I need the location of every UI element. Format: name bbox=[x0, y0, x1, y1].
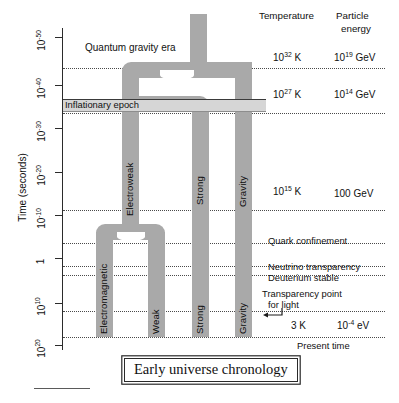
axis-tick-label: 1010 bbox=[28, 296, 54, 310]
particle-energy-value: 1014 GeV bbox=[334, 89, 375, 100]
axis-tick-label: 1 bbox=[28, 251, 54, 265]
axis-tick bbox=[55, 345, 63, 346]
temperature-value: 1027 K bbox=[273, 89, 301, 100]
axis-tick bbox=[55, 172, 63, 173]
branch-label-weak: Weak bbox=[150, 309, 161, 334]
particle-energy-header-line1: Particle bbox=[336, 10, 369, 21]
figure-caption: Early universe chronology bbox=[124, 358, 298, 382]
axis-tick-label: 10-50 bbox=[28, 30, 54, 44]
axis-tick-label: 10-10 bbox=[28, 208, 54, 222]
axis-tick-label: 10-30 bbox=[28, 121, 54, 135]
axis-tick bbox=[55, 37, 63, 38]
time-axis-line bbox=[62, 28, 63, 350]
branch-trunk bbox=[190, 14, 207, 62]
event-quark-confinement: Quark confinement bbox=[268, 235, 347, 246]
gridline-10e-35 bbox=[63, 113, 385, 114]
inflationary-epoch-label: Inflationary epoch bbox=[65, 99, 139, 110]
axis-tick-label: 10-20 bbox=[28, 165, 54, 179]
temperature-column-header: Temperature bbox=[259, 10, 314, 21]
branch-label-electroweak: Electroweak bbox=[124, 163, 135, 216]
axis-tick bbox=[55, 258, 63, 259]
footnote-rule bbox=[34, 388, 90, 389]
gridline-present-time bbox=[63, 337, 385, 338]
axis-tick bbox=[55, 128, 63, 129]
branch-strong-upper bbox=[192, 104, 209, 337]
temperature-value: 1032 K bbox=[273, 52, 301, 63]
event-neutrino-transparency: Neutrino transparency bbox=[268, 261, 360, 272]
event-transparency-point-line1: Transparency point bbox=[262, 288, 342, 299]
branch-label-electromagnetic: Electromagnetic bbox=[98, 264, 109, 334]
event-deuterium-stable: Deuterium stable bbox=[268, 272, 339, 283]
axis-tick-label: 1020 bbox=[28, 338, 54, 352]
axis-tick-label: 10-40 bbox=[28, 78, 54, 92]
axis-tick bbox=[55, 85, 63, 86]
branch-label-strong-upper: Strong bbox=[194, 176, 205, 205]
temperature-value: 1015 K bbox=[273, 186, 301, 197]
transparency-arrow-icon bbox=[262, 305, 284, 323]
particle-energy-header-line2: energy bbox=[341, 23, 371, 34]
temperature-value: 3 K bbox=[291, 320, 306, 331]
particle-energy-value: 1019 GeV bbox=[334, 52, 375, 63]
branch-label-gravity-lower: Gravity bbox=[237, 303, 248, 334]
event-present-time: Present time bbox=[297, 340, 350, 351]
branch-split-top-notch bbox=[160, 70, 194, 80]
axis-tick bbox=[55, 215, 63, 216]
particle-energy-value: 10-4 eV bbox=[337, 320, 369, 331]
early-universe-chronology-figure: Inflationary epoch 10-50 10-40 10-30 10-… bbox=[0, 0, 399, 403]
branch-label-gravity-upper: Gravity bbox=[237, 176, 248, 207]
particle-energy-value: 100 GeV bbox=[334, 188, 373, 199]
branch-split-third-notch bbox=[117, 232, 145, 241]
quantum-gravity-era-label: Quantum gravity era bbox=[85, 42, 176, 53]
axis-tick bbox=[55, 303, 63, 304]
gridline-10e-12 bbox=[63, 210, 385, 211]
branch-label-strong-lower: Strong bbox=[194, 305, 205, 334]
y-axis-title: Time (seconds) bbox=[17, 140, 28, 236]
